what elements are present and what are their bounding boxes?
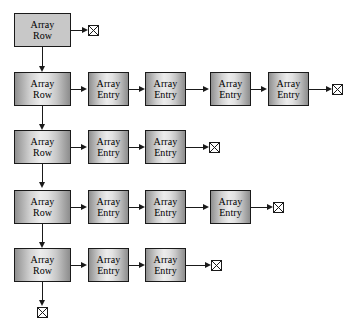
array-row-node-4[interactable]: Array Row bbox=[14, 190, 71, 224]
arrow-right-icon bbox=[81, 86, 87, 92]
connector-row1-to-row2 bbox=[42, 47, 43, 66]
node-label-line1: Array bbox=[277, 78, 301, 89]
arrow-right-icon bbox=[203, 86, 209, 92]
array-row-node-3[interactable]: Array Row bbox=[14, 130, 71, 164]
node-label-line1: Array bbox=[97, 254, 121, 265]
connector-row2-to-row3 bbox=[42, 106, 43, 124]
node-label-line1: Array bbox=[97, 78, 121, 89]
node-label-line2: Entry bbox=[219, 207, 242, 218]
node-label-line2: Row bbox=[33, 89, 52, 100]
connector-row5-to-tail-terminator bbox=[42, 282, 43, 302]
connector-row2-seg3 bbox=[186, 89, 204, 90]
arrow-right-icon bbox=[203, 204, 209, 210]
null-terminator-icon bbox=[37, 307, 48, 318]
array-entry-node-3-1[interactable]: Array Entry bbox=[88, 130, 129, 164]
array-entry-node-4-2[interactable]: Array Entry bbox=[145, 190, 186, 224]
array-entry-node-2-3[interactable]: Array Entry bbox=[210, 72, 251, 106]
array-entry-node-2-4[interactable]: Array Entry bbox=[268, 72, 309, 106]
node-label-line1: Array bbox=[97, 136, 121, 147]
node-label-line2: Entry bbox=[154, 89, 177, 100]
node-label-line1: Array bbox=[31, 254, 55, 265]
node-label-line1: Array bbox=[31, 196, 55, 207]
node-label-line1: Array bbox=[154, 254, 178, 265]
node-label-line2: Row bbox=[33, 207, 52, 218]
arrow-right-icon bbox=[81, 262, 87, 268]
arrow-right-icon bbox=[261, 86, 267, 92]
node-label-line2: Entry bbox=[154, 207, 177, 218]
array-entry-node-5-1[interactable]: Array Entry bbox=[88, 248, 129, 282]
node-label-line2: Entry bbox=[97, 89, 120, 100]
array-entry-node-5-2[interactable]: Array Entry bbox=[145, 248, 186, 282]
array-entry-node-2-2[interactable]: Array Entry bbox=[145, 72, 186, 106]
node-label-line1: Array bbox=[154, 78, 178, 89]
array-row-node-5[interactable]: Array Row bbox=[14, 248, 71, 282]
null-terminator-icon bbox=[209, 142, 220, 153]
array-entry-node-2-1[interactable]: Array Entry bbox=[88, 72, 129, 106]
array-entry-node-3-2[interactable]: Array Entry bbox=[145, 130, 186, 164]
connector-row5-to-terminator bbox=[186, 265, 206, 266]
node-label-line1: Array bbox=[154, 196, 178, 207]
arrow-right-icon bbox=[81, 204, 87, 210]
connector-row2-to-terminator bbox=[309, 89, 327, 90]
node-label-line1: Array bbox=[31, 19, 55, 30]
node-label-line1: Array bbox=[97, 196, 121, 207]
node-label-line1: Array bbox=[31, 136, 55, 147]
node-label-line2: Entry bbox=[154, 147, 177, 158]
arrow-down-icon bbox=[39, 182, 45, 188]
node-label-line2: Row bbox=[33, 147, 52, 158]
array-row-node-2[interactable]: Array Row bbox=[14, 72, 71, 106]
node-label-line2: Entry bbox=[277, 89, 300, 100]
node-label-line2: Entry bbox=[154, 265, 177, 276]
connector-row4-seg3 bbox=[186, 207, 204, 208]
node-label-line1: Array bbox=[31, 78, 55, 89]
null-terminator-icon bbox=[211, 260, 222, 271]
node-label-line2: Entry bbox=[97, 207, 120, 218]
node-label-line1: Array bbox=[219, 196, 243, 207]
null-terminator-icon bbox=[88, 25, 99, 36]
null-terminator-icon bbox=[332, 84, 343, 95]
node-label-line2: Entry bbox=[97, 147, 120, 158]
array-structure-diagram: Array Row Array Row Array Entry Array En… bbox=[0, 0, 354, 327]
connector-row3-to-row4 bbox=[42, 164, 43, 182]
arrow-right-icon bbox=[81, 144, 87, 150]
node-label-line2: Row bbox=[33, 265, 52, 276]
array-row-node-1[interactable]: Array Row bbox=[14, 13, 71, 47]
array-entry-node-4-1[interactable]: Array Entry bbox=[88, 190, 129, 224]
connector-row4-to-terminator bbox=[251, 207, 268, 208]
node-label-line1: Array bbox=[154, 136, 178, 147]
node-label-line2: Row bbox=[33, 30, 52, 41]
null-terminator-icon bbox=[273, 202, 284, 213]
connector-row4-to-row5 bbox=[42, 224, 43, 242]
node-label-line2: Entry bbox=[219, 89, 242, 100]
arrow-down-icon bbox=[39, 300, 45, 306]
array-entry-node-4-3[interactable]: Array Entry bbox=[210, 190, 251, 224]
node-label-line1: Array bbox=[219, 78, 243, 89]
node-label-line2: Entry bbox=[97, 265, 120, 276]
connector-row3-to-terminator bbox=[186, 147, 204, 148]
